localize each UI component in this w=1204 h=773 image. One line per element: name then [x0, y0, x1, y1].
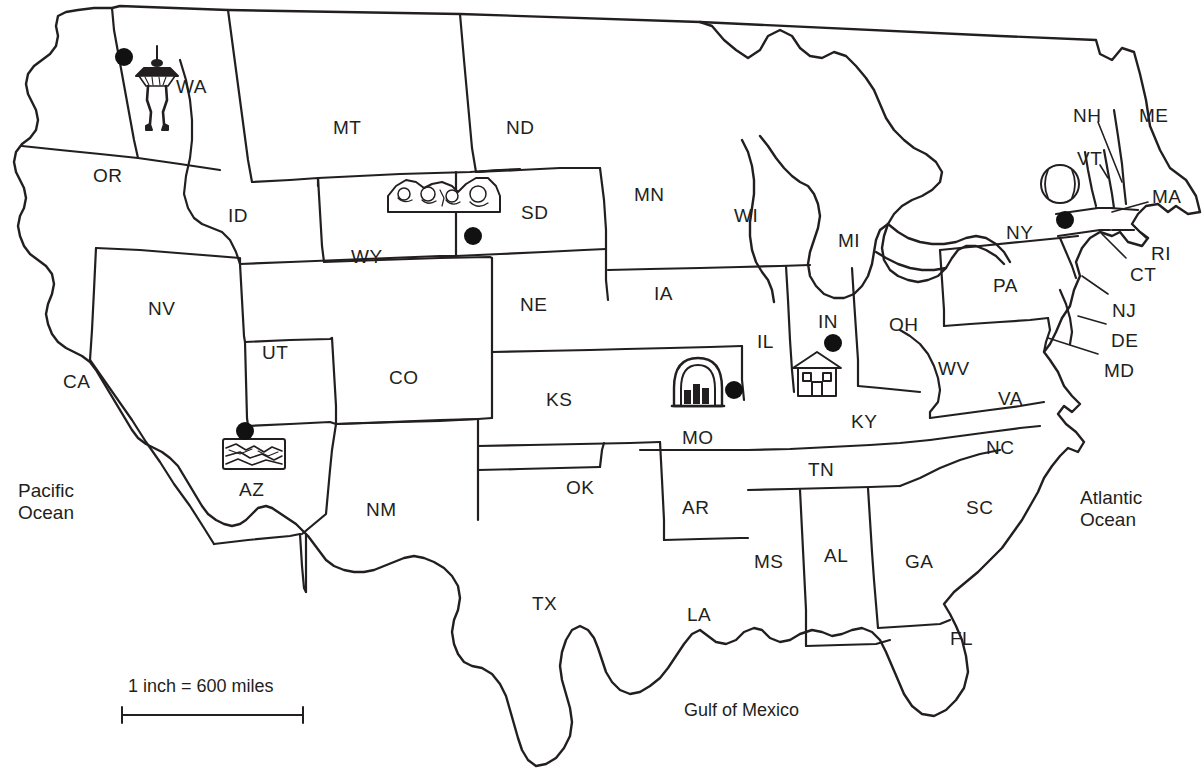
state-label-oh: OH — [889, 314, 919, 336]
state-label-fl: FL — [950, 628, 973, 650]
map-vector-layer — [0, 0, 1204, 773]
state-label-ne: NE — [520, 294, 547, 316]
state-label-sc: SC — [966, 497, 993, 519]
baseball-icon — [1041, 165, 1079, 203]
state-label-mt: MT — [333, 117, 361, 139]
state-label-az: AZ — [239, 479, 264, 501]
gulf-of-mexico-label: Gulf of Mexico — [684, 700, 799, 721]
state-label-al: AL — [824, 545, 848, 567]
state-label-me: ME — [1139, 105, 1169, 127]
state-label-wv: WV — [938, 358, 970, 380]
scale-bar-label: 1 inch = 600 miles — [128, 676, 274, 697]
state-label-ok: OK — [566, 477, 594, 499]
state-label-ms: MS — [754, 551, 784, 573]
state-label-nj: NJ — [1112, 300, 1136, 322]
pacific-ocean-label: Pacific Ocean — [18, 480, 74, 524]
city-dot-mo — [725, 381, 743, 399]
us-map-figure: WA OR ID MT ND SD MN WI MI WY NV UT CA C… — [0, 0, 1204, 773]
state-label-nd: ND — [506, 117, 534, 139]
atlantic-ocean-line2: Ocean — [1080, 509, 1142, 531]
state-label-ar: AR — [682, 497, 709, 519]
state-label-pa: PA — [993, 275, 1018, 297]
state-label-co: CO — [389, 367, 419, 389]
state-label-ia: IA — [654, 283, 673, 305]
city-dot-sd — [464, 227, 482, 245]
state-label-nv: NV — [148, 298, 175, 320]
state-label-or: OR — [93, 165, 123, 187]
state-label-vt: VT — [1077, 148, 1102, 170]
state-label-id: ID — [228, 205, 248, 227]
state-label-ri: RI — [1151, 243, 1171, 265]
state-label-sd: SD — [521, 202, 548, 224]
state-label-in: IN — [818, 311, 838, 333]
pacific-ocean-line2: Ocean — [18, 502, 74, 524]
scale-bar — [122, 707, 303, 723]
state-label-wy: WY — [351, 246, 383, 268]
state-label-va: VA — [998, 388, 1023, 410]
state-label-ut: UT — [262, 342, 288, 364]
state-label-ca: CA — [63, 371, 90, 393]
state-label-nh: NH — [1073, 105, 1101, 127]
state-label-wa: WA — [176, 76, 207, 98]
gateway-arch-icon — [672, 358, 724, 406]
mount-rushmore-icon — [388, 178, 500, 212]
state-label-wi: WI — [734, 205, 758, 227]
state-label-tn: TN — [808, 459, 834, 481]
state-label-ga: GA — [905, 551, 933, 573]
state-label-mi: MI — [838, 230, 860, 252]
state-label-de: DE — [1111, 330, 1138, 352]
state-label-mn: MN — [634, 184, 665, 206]
city-dot-az — [236, 422, 254, 440]
state-label-md: MD — [1104, 360, 1135, 382]
state-label-tx: TX — [532, 593, 557, 615]
state-label-il: IL — [757, 331, 774, 353]
state-label-nm: NM — [366, 499, 397, 521]
city-dot-in — [824, 334, 842, 352]
state-label-mo: MO — [682, 427, 714, 449]
city-dot-ny — [1056, 211, 1074, 229]
leader-md — [1048, 338, 1098, 354]
state-label-ks: KS — [546, 389, 572, 411]
state-label-ky: KY — [851, 411, 877, 433]
state-label-ny: NY — [1006, 222, 1033, 244]
grand-canyon-icon — [223, 439, 285, 469]
state-label-la: LA — [687, 604, 711, 626]
leader-nj — [1082, 276, 1108, 294]
state-label-ct: CT — [1130, 264, 1156, 286]
leader-de — [1078, 316, 1106, 324]
pacific-ocean-line1: Pacific — [18, 480, 74, 502]
atlantic-ocean-label: Atlantic Ocean — [1080, 487, 1142, 531]
state-label-nc: NC — [986, 437, 1014, 459]
state-label-ma: MA — [1152, 186, 1182, 208]
atlantic-ocean-line1: Atlantic — [1080, 487, 1142, 509]
leader-ct — [1102, 234, 1126, 258]
city-dot-seattle — [115, 48, 133, 66]
